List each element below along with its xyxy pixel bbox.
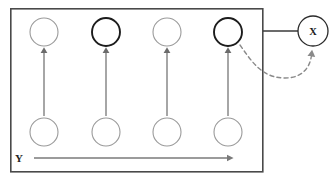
bottom-node-3[interactable] [153,118,181,146]
bottom-node-1[interactable] [30,118,58,146]
external-node-x-group[interactable]: X [298,16,328,46]
latent-to-observed-arrows [44,52,228,116]
feedback-curve-dashed [240,45,312,78]
observed-variable-row [30,18,242,46]
external-node-x-label: X [309,26,317,37]
y-axis-label: Y [15,152,23,164]
latent-variable-row [30,118,242,146]
plate-notation-diagram: X Y [0,0,335,183]
top-node-2[interactable] [92,18,120,46]
top-node-1[interactable] [30,18,58,46]
diagram-canvas: X Y [0,0,335,183]
top-node-3[interactable] [153,18,181,46]
bottom-node-4[interactable] [214,118,242,146]
bottom-node-2[interactable] [92,118,120,146]
top-node-4[interactable] [214,18,242,46]
